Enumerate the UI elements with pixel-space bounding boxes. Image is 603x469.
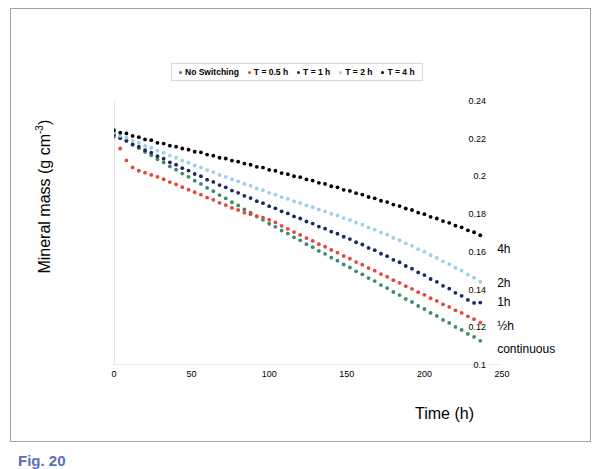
data-point (261, 188, 265, 192)
data-point (441, 318, 445, 322)
data-point (429, 311, 433, 315)
data-point (292, 215, 296, 219)
data-point (348, 257, 352, 261)
data-point (323, 227, 327, 231)
data-point (162, 177, 166, 181)
data-point (478, 280, 482, 284)
data-point (404, 241, 408, 245)
data-point (218, 173, 222, 177)
data-point (305, 242, 309, 246)
series-annotation: 4h (497, 242, 510, 256)
data-point (118, 147, 122, 151)
y-axis-title-superscript: -3 (34, 125, 45, 134)
data-point (373, 196, 377, 200)
data-point (280, 171, 284, 175)
data-point (429, 277, 433, 281)
data-point (180, 185, 184, 189)
data-point (168, 160, 172, 164)
data-point (180, 159, 184, 163)
data-point (236, 179, 240, 183)
legend-marker-icon (381, 71, 384, 74)
data-point (367, 266, 371, 270)
data-point (298, 201, 302, 205)
data-point (354, 269, 358, 273)
data-point (441, 284, 445, 288)
data-point (367, 195, 371, 199)
data-point (156, 149, 160, 153)
data-point (336, 259, 340, 263)
data-point (286, 232, 290, 236)
data-point (205, 186, 209, 190)
data-point (404, 284, 408, 288)
data-point (342, 254, 346, 258)
legend-label: No Switching (185, 67, 239, 77)
data-point (447, 287, 451, 291)
data-point (137, 141, 141, 145)
data-point (354, 221, 358, 225)
legend-label: T = 4 h (387, 67, 414, 77)
scatter-canvas (114, 101, 502, 365)
data-point (373, 269, 377, 273)
data-point (211, 170, 215, 174)
data-point (298, 233, 302, 237)
data-point (478, 233, 482, 237)
data-point (354, 240, 358, 244)
data-point (168, 154, 172, 158)
data-point (348, 218, 352, 222)
data-point (379, 199, 383, 203)
legend-label: T = 0.5 h (254, 67, 288, 77)
data-point (317, 225, 321, 229)
data-point (311, 245, 315, 249)
data-point (367, 226, 371, 230)
data-point (336, 214, 340, 218)
data-point (156, 175, 160, 179)
legend-item-3: T = 2 h (339, 67, 372, 77)
data-point (274, 169, 278, 173)
data-point (317, 208, 321, 212)
data-point (131, 134, 135, 138)
data-point (342, 263, 346, 267)
plot-area (114, 101, 502, 365)
data-point (404, 297, 408, 301)
data-point (454, 325, 458, 329)
data-point (472, 230, 476, 234)
data-point (211, 154, 215, 158)
data-point (230, 206, 234, 210)
data-point (472, 276, 476, 280)
data-point (267, 168, 271, 172)
figure-frame: No SwitchingT = 0.5 hT = 1 hT = 2 hT = 4… (10, 8, 591, 442)
data-point (447, 221, 451, 225)
data-point (360, 193, 364, 197)
data-point (236, 208, 240, 212)
data-point (354, 260, 358, 264)
y-axis-tick-label: 0.1 (473, 360, 486, 370)
data-point (398, 238, 402, 242)
data-point (224, 175, 228, 179)
data-point (454, 266, 458, 270)
data-point (292, 199, 296, 203)
x-axis-tick-label: 50 (187, 369, 197, 379)
data-point (447, 262, 451, 266)
data-point (242, 162, 246, 166)
data-point (410, 244, 414, 248)
data-point (336, 251, 340, 255)
data-point (416, 271, 420, 275)
data-point (174, 182, 178, 186)
data-point (174, 145, 178, 149)
data-point (441, 260, 445, 264)
data-point (143, 144, 147, 148)
data-point (460, 328, 464, 332)
x-axis-tick-label: 0 (111, 369, 116, 379)
data-point (385, 233, 389, 237)
data-point (348, 266, 352, 270)
data-point (180, 172, 184, 176)
data-point (187, 175, 191, 179)
data-point (193, 164, 197, 168)
legend-item-1: T = 0.5 h (248, 67, 288, 77)
data-point (410, 208, 414, 212)
data-point (454, 291, 458, 295)
data-point (416, 304, 420, 308)
x-axis-tick-label: 200 (417, 369, 432, 379)
data-point (193, 172, 197, 176)
y-axis-title: Mineral mass (g cm-3) (34, 82, 53, 312)
